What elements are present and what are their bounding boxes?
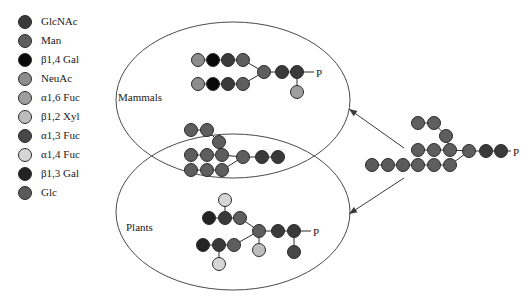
glycan-node-a14fuc	[212, 257, 226, 271]
glycan-node-glcnac	[271, 150, 285, 164]
glycan-node-glcnac	[287, 224, 301, 238]
glycan-node-glcnac	[494, 144, 508, 158]
glycan-node-man	[443, 158, 457, 172]
glycan-node-man	[236, 150, 250, 164]
phosphate-label: P	[313, 227, 319, 238]
glycan-node-b12xyl	[252, 243, 266, 257]
group-label-mammals: Mammals	[118, 92, 162, 103]
glycan-node-a16fuc	[290, 85, 304, 99]
glycan-node-man	[427, 143, 441, 157]
glycan-node-man	[200, 163, 214, 177]
glycan-node-glc	[381, 158, 395, 172]
glycan-node-man	[200, 148, 214, 162]
glycan-node-man	[184, 123, 198, 137]
glycan-node-man	[215, 148, 229, 162]
glycan-node-b13gal	[196, 238, 210, 252]
glycan-node-b13gal	[202, 211, 216, 225]
glycan-node-glcnac	[255, 150, 269, 164]
glycan-node-glc	[396, 158, 410, 172]
phosphate-label: P	[513, 147, 519, 158]
glycan-node-man	[411, 116, 425, 130]
glycan-node-man	[252, 224, 266, 238]
glycan-node-man	[184, 148, 198, 162]
glycan-node-neuac	[191, 77, 205, 91]
glycan-node-glc	[365, 158, 379, 172]
glycan-node-glcnac	[221, 53, 235, 67]
glycan-node-man	[200, 123, 214, 137]
glycan-node-a13fuc	[287, 245, 301, 259]
glycan-node-man	[443, 143, 457, 157]
glycan-node-man	[439, 129, 453, 143]
glycan-structures: PPPMammalsPlants	[0, 0, 521, 297]
glycan-node-glcnac	[290, 65, 304, 79]
glycan-node-man	[236, 77, 250, 91]
glycan-node-glcnac	[479, 144, 493, 158]
glycan-node-man	[411, 143, 425, 157]
figure-canvas: GlcNAcManβ1,4 GalNeuAcα1,6 Fucβ1,2 Xylα1…	[0, 0, 521, 297]
glycan-node-man	[236, 53, 250, 67]
glycan-node-b14gal	[206, 77, 220, 91]
glycan-node-man	[257, 65, 271, 79]
glycan-node-man	[462, 144, 476, 158]
glycan-node-man	[411, 158, 425, 172]
glycan-node-glcnac	[212, 238, 226, 252]
glycan-node-man	[184, 163, 198, 177]
glycan-node-b14gal	[206, 53, 220, 67]
glycan-node-glcnac	[271, 224, 285, 238]
glycan-node-man	[227, 238, 241, 252]
glycan-node-a14fuc	[218, 193, 232, 207]
glycan-node-man	[212, 135, 226, 149]
glycan-node-man	[427, 116, 441, 130]
glycan-node-man	[233, 211, 247, 225]
glycan-node-glcnac	[275, 65, 289, 79]
glycan-node-glcnac	[218, 211, 232, 225]
glycan-node-neuac	[191, 53, 205, 67]
glycan-node-man	[427, 158, 441, 172]
glycan-node-man	[215, 163, 229, 177]
glycan-node-glcnac	[221, 77, 235, 91]
group-label-plants: Plants	[126, 222, 153, 233]
phosphate-label: P	[316, 68, 322, 79]
